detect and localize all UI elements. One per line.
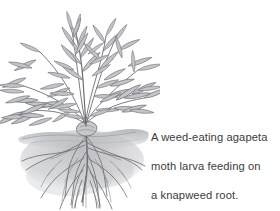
- plant-foliage: [0, 11, 160, 126]
- knapweed-plant-illustration: [0, 0, 160, 211]
- caption-line-3: a knapweed root.: [151, 188, 277, 202]
- caption-text: A weed-eating agapeta moth larva feeding…: [151, 116, 277, 211]
- caption-line-2: moth larva feeding on: [151, 159, 277, 173]
- caption-line-1: A weed-eating agapeta: [151, 130, 277, 144]
- root-crown: [76, 121, 96, 136]
- illustration-page: A weed-eating agapeta moth larva feeding…: [0, 0, 280, 211]
